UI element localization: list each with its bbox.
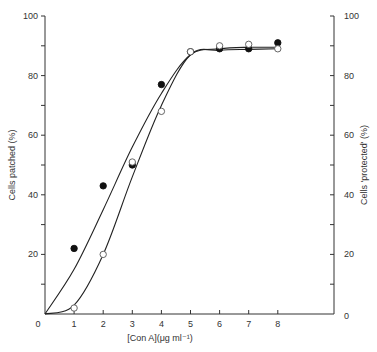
x-tick-label: 1 — [72, 319, 77, 329]
filled-data-point — [100, 183, 106, 189]
filled-data-point — [275, 40, 281, 46]
y-tick-label: 60 — [28, 130, 38, 140]
axis-labels: 20406080100020406080100012345678[Con A](… — [7, 11, 369, 343]
y-tick-label: 80 — [28, 71, 38, 81]
x-tick-label: 0 — [35, 319, 40, 329]
x-tick-label: 2 — [101, 319, 106, 329]
x-axis-title: [Con A](μg ml⁻¹) — [127, 333, 193, 343]
x-tick-label: 3 — [130, 319, 135, 329]
open-data-point — [158, 108, 164, 114]
x-tick-label: 5 — [188, 319, 193, 329]
y2-axis-title: Cells 'protected' (%) — [359, 125, 369, 205]
open-data-point — [216, 43, 222, 49]
y2-tick-label: 80 — [344, 71, 354, 81]
y2-tick-label: 60 — [344, 130, 354, 140]
x-tick-label: 8 — [275, 319, 280, 329]
protected-fit-curve — [45, 49, 278, 314]
x-tick-label: 4 — [159, 319, 164, 329]
open-data-point — [187, 49, 193, 55]
y-tick-label: 20 — [28, 249, 38, 259]
open-data-point — [246, 41, 252, 47]
y-tick-label: 40 — [28, 190, 38, 200]
chart: 20406080100020406080100012345678[Con A](… — [0, 0, 377, 352]
axes — [41, 16, 334, 314]
open-data-point — [129, 159, 135, 165]
open-data-point — [100, 251, 106, 257]
open-data-point — [71, 305, 77, 311]
x-tick-label: 7 — [246, 319, 251, 329]
data-points — [71, 40, 281, 312]
y2-tick-label: 0 — [344, 311, 349, 321]
y-tick-label: 100 — [23, 11, 38, 21]
y2-tick-label: 20 — [344, 249, 354, 259]
x-tick-label: 6 — [217, 319, 222, 329]
filled-data-point — [71, 245, 77, 251]
y-axis-title: Cells patched (%) — [7, 129, 17, 200]
open-data-point — [275, 46, 281, 52]
y2-tick-label: 100 — [344, 11, 359, 21]
y2-tick-label: 40 — [344, 190, 354, 200]
filled-data-point — [158, 81, 164, 87]
